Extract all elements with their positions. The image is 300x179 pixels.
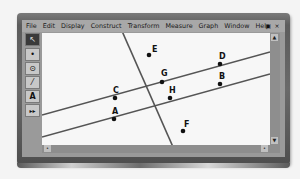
geometry-drawing[interactable]: EDGBCHAF <box>42 33 270 145</box>
text-tool-icon[interactable]: A <box>25 90 40 103</box>
straightedge-tool-icon[interactable]: ⁄ <box>25 76 40 89</box>
toolbox: ↖ • ⊙ ⁄ A ▸▸ <box>25 32 40 126</box>
point-label-c[interactable]: C <box>113 86 119 95</box>
point-h[interactable] <box>168 96 173 101</box>
menu-file[interactable]: File <box>26 22 37 30</box>
menu-window[interactable]: Window <box>224 22 249 30</box>
point-label-b[interactable]: B <box>219 72 225 81</box>
arrow-tool-icon[interactable]: ↖ <box>25 33 40 46</box>
point-tool-icon[interactable]: • <box>25 48 40 61</box>
point-e[interactable] <box>147 53 152 58</box>
scroll-left-button[interactable]: • <box>44 145 51 152</box>
point-label-a[interactable]: A <box>112 107 119 116</box>
sketchpad-window: File Edit Display Construct Transform Me… <box>17 13 290 165</box>
point-f[interactable] <box>181 129 186 134</box>
menu-construct[interactable]: Construct <box>91 22 122 30</box>
scroll-right-button[interactable]: • <box>261 145 268 152</box>
point-label-g[interactable]: G <box>161 69 168 78</box>
window-body: File Edit Display Construct Transform Me… <box>22 20 285 157</box>
menu-transform[interactable]: Transform <box>128 22 160 30</box>
restore-icon[interactable]: ▣ <box>265 22 271 29</box>
horizontal-scrollbar[interactable]: • • <box>42 145 280 153</box>
point-g[interactable] <box>160 80 165 85</box>
point-a[interactable] <box>112 117 117 122</box>
vertical-scrollbar[interactable]: ▲ ▼ <box>270 33 280 145</box>
frame-reflection <box>17 163 290 168</box>
point-label-f[interactable]: F <box>184 120 189 129</box>
transversal-line-ef[interactable] <box>122 33 173 145</box>
point-b[interactable] <box>218 82 223 87</box>
menu-edit[interactable]: Edit <box>43 22 55 30</box>
point-d[interactable] <box>218 62 223 67</box>
menu-bar: File Edit Display Construct Transform Me… <box>22 20 285 32</box>
scroll-down-button[interactable]: ▼ <box>271 137 278 144</box>
compass-tool-icon[interactable]: ⊙ <box>25 62 40 75</box>
custom-tool-icon[interactable]: ▸▸ <box>25 104 40 117</box>
menu-graph[interactable]: Graph <box>199 22 219 30</box>
point-label-h[interactable]: H <box>169 86 176 95</box>
menu-display[interactable]: Display <box>61 22 85 30</box>
point-c[interactable] <box>113 96 118 101</box>
close-icon[interactable]: × <box>274 22 280 29</box>
menu-measure[interactable]: Measure <box>165 22 192 30</box>
scroll-up-button[interactable]: ▲ <box>271 34 278 41</box>
point-label-e[interactable]: E <box>152 45 157 54</box>
point-label-d[interactable]: D <box>219 52 226 61</box>
sketch-canvas[interactable]: EDGBCHAF <box>42 33 270 145</box>
